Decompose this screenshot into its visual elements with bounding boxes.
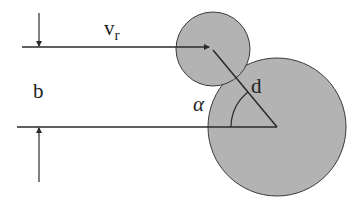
- velocity-label: vr: [104, 16, 120, 43]
- impact-parameter-label: b: [33, 79, 44, 103]
- collision-diagram: vr b d α: [0, 0, 363, 205]
- diagram-canvas: vr b d α: [0, 0, 363, 205]
- angle-label: α: [193, 92, 205, 116]
- small-sphere: [176, 12, 250, 86]
- distance-label: d: [251, 74, 262, 98]
